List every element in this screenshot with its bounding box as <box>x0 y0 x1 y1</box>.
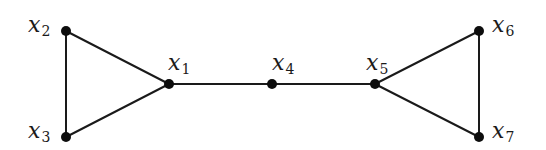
node-x2 <box>61 26 71 36</box>
node-x6 <box>474 26 484 36</box>
node-x7 <box>474 132 484 142</box>
label-x1: x1 <box>168 50 190 77</box>
labels-group: x1x2x3x4x5x6x7 <box>28 12 514 145</box>
label-x5: x5 <box>366 50 388 77</box>
label-x2: x2 <box>28 12 50 39</box>
node-x1 <box>164 79 174 89</box>
label-x7: x7 <box>492 118 514 145</box>
nodes-group <box>61 26 484 142</box>
edge-x5-x7 <box>375 84 479 137</box>
edge-x5-x6 <box>375 31 479 84</box>
edge-x2-x1 <box>66 31 169 84</box>
label-x3: x3 <box>28 118 50 145</box>
graph-svg: x1x2x3x4x5x6x7 <box>0 0 546 150</box>
node-x3 <box>61 132 71 142</box>
label-x4: x4 <box>272 50 294 77</box>
node-x4 <box>267 79 277 89</box>
label-x6: x6 <box>492 12 514 39</box>
node-x5 <box>370 79 380 89</box>
edge-x3-x1 <box>66 84 169 137</box>
graph-diagram: x1x2x3x4x5x6x7 <box>0 0 546 150</box>
